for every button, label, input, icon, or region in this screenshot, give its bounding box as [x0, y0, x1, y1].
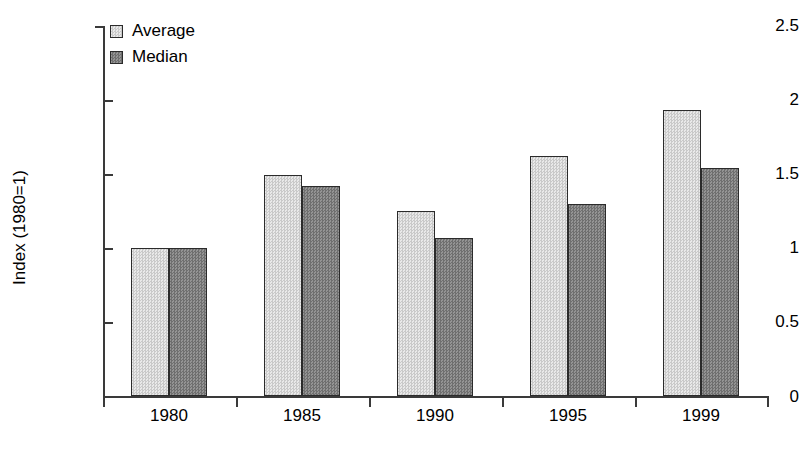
y-tick-label: 0.5	[753, 312, 799, 332]
x-axis-end-cap	[767, 396, 769, 407]
y-axis-title: Index (1980=1)	[0, 0, 40, 455]
chart-legend: Average Median	[110, 18, 195, 70]
y-tick-label: 2.5	[753, 16, 799, 36]
x-tick-label: 1980	[109, 406, 229, 426]
bar-median-1985	[302, 186, 340, 396]
x-tick-label: 1985	[242, 406, 362, 426]
bar-average-1980	[131, 248, 169, 396]
x-tick-mark	[103, 398, 105, 407]
x-tick-label: 1999	[641, 406, 761, 426]
bar-median-1980	[169, 248, 207, 396]
bar-average-1995	[530, 156, 568, 396]
x-axis-line	[103, 396, 769, 398]
bar-chart: Index (1980=1) 2.5 2 1.5 1 0.5 0 1980 19…	[0, 0, 799, 455]
y-tick-label: 1	[753, 238, 799, 258]
legend-item-median: Median	[110, 44, 195, 70]
x-tick-mark	[236, 398, 238, 407]
y-tick-label: 2	[753, 90, 799, 110]
legend-swatch-median-icon	[110, 51, 123, 64]
bar-average-1999	[663, 110, 701, 396]
x-tick-mark	[635, 398, 637, 407]
legend-swatch-average-icon	[110, 25, 123, 38]
y-axis-title-text: Index (1980=1)	[10, 170, 30, 285]
bar-median-1999	[701, 168, 739, 396]
legend-label-average: Average	[132, 21, 195, 41]
bar-average-1985	[264, 175, 302, 396]
x-tick-mark	[369, 398, 371, 407]
bar-median-1990	[435, 238, 473, 396]
y-axis-line	[103, 26, 105, 398]
legend-item-average: Average	[110, 18, 195, 44]
y-tick-mark	[105, 174, 113, 176]
x-tick-label: 1990	[375, 406, 495, 426]
legend-label-median: Median	[132, 47, 188, 67]
x-tick-mark	[502, 398, 504, 407]
y-tick-mark	[105, 248, 113, 250]
y-tick-label: 1.5	[753, 164, 799, 184]
y-tick-mark	[105, 100, 113, 102]
bar-median-1995	[568, 204, 606, 396]
x-tick-label: 1995	[508, 406, 628, 426]
bar-average-1990	[397, 211, 435, 396]
y-tick-mark	[105, 322, 113, 324]
